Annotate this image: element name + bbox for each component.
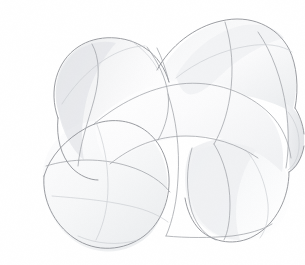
paper-grain-overlay	[0, 0, 305, 265]
figure-container: Steinmetz tricylinder solid Line-art ren…	[0, 0, 305, 265]
steinmetz-solid-figure: Steinmetz tricylinder solid Line-art ren…	[0, 0, 305, 265]
